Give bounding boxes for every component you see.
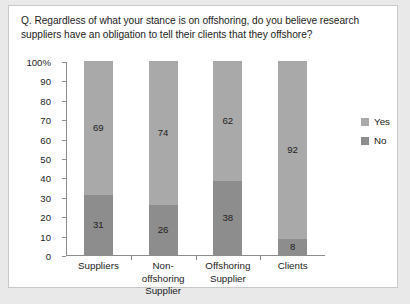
chart-panel: Q. Regardless of what your stance is on …	[8, 5, 398, 288]
y-axis-tick-label: 10	[40, 231, 51, 242]
y-axis-tick-label: 80	[40, 95, 51, 106]
y-axis-tick	[62, 120, 66, 121]
bar-non-offshoring-supplier: 7426	[149, 61, 178, 255]
bar-value-label-no: 31	[93, 220, 104, 230]
x-axis-category-label: Clients	[250, 260, 336, 273]
y-axis-tick-label: 60	[40, 134, 51, 145]
bar-value-label-yes: 92	[287, 145, 298, 155]
bar-value-label-no: 8	[290, 242, 295, 252]
y-axis-tick	[62, 198, 66, 199]
legend-item-no[interactable]: No	[361, 135, 390, 146]
bar-offshoring-supplier: 6238	[213, 61, 242, 255]
bar-value-label-yes: 69	[93, 123, 104, 133]
bar-segment-yes: 69	[84, 61, 113, 195]
x-axis-category-line: Supplier	[120, 285, 206, 298]
y-axis-tick	[62, 159, 66, 160]
bar-value-label-no: 38	[223, 213, 234, 223]
y-axis-tick	[62, 237, 66, 238]
y-axis-tick-label: 50	[40, 154, 51, 165]
bar-segment-yes: 62	[213, 61, 242, 181]
bar-segment-no: 31	[84, 195, 113, 255]
y-axis-tick	[62, 101, 66, 102]
y-axis-tick	[62, 256, 66, 257]
bar-segment-no: 26	[149, 205, 178, 255]
y-axis-labels: 0102030405060708090100%	[9, 62, 59, 256]
y-axis-tick-label: 90	[40, 76, 51, 87]
legend-item-yes[interactable]: Yes	[361, 116, 390, 127]
bar-suppliers: 6931	[84, 61, 113, 255]
legend-label: No	[374, 135, 387, 146]
legend-label: Yes	[374, 116, 390, 127]
x-axis-category-line: Supplier	[185, 273, 271, 286]
y-axis-tick	[62, 81, 66, 82]
y-axis-tick-label: 30	[40, 192, 51, 203]
y-axis-tick-label: 0	[46, 251, 51, 262]
y-axis-line	[66, 62, 67, 256]
question-text: Q. Regardless of what your stance is on …	[21, 14, 389, 41]
y-axis-tick-label: 70	[40, 115, 51, 126]
y-axis-tick-label: 20	[40, 212, 51, 223]
chart-legend: YesNo	[361, 116, 390, 154]
bar-value-label-yes: 74	[158, 128, 169, 138]
bar-value-label-no: 26	[158, 225, 169, 235]
bar-segment-yes: 92	[278, 61, 307, 239]
y-axis-tick	[62, 217, 66, 218]
y-axis-tick-label: 100%	[26, 57, 51, 68]
y-axis-tick	[62, 140, 66, 141]
bar-clients: 928	[278, 61, 307, 255]
bar-segment-no: 8	[278, 239, 307, 255]
bar-segment-yes: 74	[149, 61, 178, 205]
legend-swatch-icon	[361, 137, 369, 145]
y-axis-tick-label: 40	[40, 173, 51, 184]
x-axis-category-line: Clients	[250, 260, 336, 273]
y-axis-tick	[62, 178, 66, 179]
y-axis-tick	[62, 62, 66, 63]
bar-value-label-yes: 62	[223, 116, 234, 126]
legend-swatch-icon	[361, 118, 369, 126]
plot-area: 693174266238928	[66, 62, 325, 256]
chart-screenshot: Q. Regardless of what your stance is on …	[0, 0, 410, 304]
bar-segment-no: 38	[213, 181, 242, 255]
